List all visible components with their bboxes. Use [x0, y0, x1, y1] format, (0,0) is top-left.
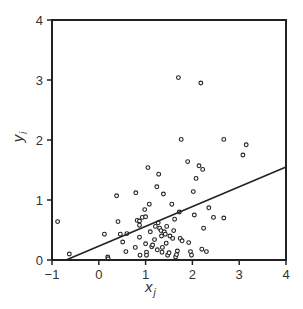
- data-point: [160, 234, 164, 238]
- data-point: [244, 143, 248, 147]
- data-point: [171, 237, 175, 241]
- data-point: [180, 239, 184, 243]
- data-point: [192, 213, 196, 217]
- x-axis-label: xj: [144, 278, 157, 298]
- x-tick-label: 0: [95, 267, 102, 282]
- x-axis: −101234: [45, 260, 290, 282]
- data-point: [133, 246, 137, 250]
- data-point: [167, 251, 171, 255]
- data-point: [191, 190, 195, 194]
- data-point: [138, 219, 142, 223]
- data-point: [145, 253, 149, 257]
- data-point: [138, 235, 142, 239]
- data-point: [160, 250, 164, 254]
- data-point: [134, 191, 138, 195]
- data-point: [222, 138, 226, 142]
- data-point: [115, 194, 119, 198]
- data-point: [172, 229, 176, 233]
- data-point: [187, 241, 191, 245]
- y-tick-label: 4: [36, 13, 43, 28]
- regression-line: [66, 167, 286, 260]
- data-points: [56, 76, 248, 261]
- data-point: [144, 215, 148, 219]
- data-point: [201, 168, 205, 172]
- plot-frame: [52, 20, 286, 260]
- x-tick-label: −1: [45, 267, 60, 282]
- data-point: [200, 247, 204, 251]
- data-point: [157, 172, 161, 176]
- x-tick-label: 4: [282, 267, 289, 282]
- data-point: [179, 138, 183, 142]
- data-point: [116, 220, 120, 224]
- data-point: [148, 230, 152, 234]
- y-axis-label: yi: [9, 131, 29, 144]
- y-axis-label-main: y: [9, 133, 26, 143]
- data-point: [170, 202, 174, 206]
- y-axis-label-sub: i: [18, 131, 29, 134]
- scatter-chart: −101234 01234 xj yi: [0, 0, 303, 309]
- y-tick-label: 3: [36, 73, 43, 88]
- data-point: [154, 225, 158, 229]
- data-point: [173, 217, 177, 221]
- data-point: [153, 238, 157, 242]
- data-point: [103, 232, 107, 236]
- data-point: [121, 240, 125, 244]
- data-point: [163, 232, 167, 236]
- x-tick-label: 3: [236, 267, 243, 282]
- data-point: [241, 153, 245, 157]
- data-point: [124, 250, 128, 254]
- y-tick-label: 2: [36, 133, 43, 148]
- data-point: [176, 249, 180, 253]
- data-point: [143, 208, 147, 212]
- y-tick-label: 0: [36, 253, 43, 268]
- data-point: [205, 250, 209, 254]
- x-tick-label: 2: [189, 267, 196, 282]
- data-point: [151, 243, 155, 247]
- y-axis: 01234: [36, 13, 52, 268]
- data-point: [138, 253, 142, 257]
- data-point: [161, 246, 165, 250]
- data-point: [199, 81, 203, 85]
- data-point: [212, 216, 216, 220]
- data-point: [165, 225, 169, 229]
- data-point: [144, 242, 148, 246]
- data-point: [162, 192, 166, 196]
- data-point: [155, 185, 159, 189]
- data-point: [147, 202, 151, 206]
- data-point: [67, 252, 71, 256]
- data-point: [56, 220, 60, 224]
- data-point: [197, 164, 201, 168]
- data-point: [194, 177, 198, 181]
- data-point: [186, 160, 190, 164]
- data-point: [207, 206, 211, 210]
- data-point: [138, 223, 142, 227]
- data-point: [202, 226, 206, 230]
- data-point: [118, 232, 122, 236]
- y-tick-label: 1: [36, 193, 43, 208]
- data-point: [164, 241, 168, 245]
- data-point: [190, 253, 194, 257]
- data-point: [222, 216, 226, 220]
- data-point: [146, 166, 150, 170]
- x-axis-label-main: x: [144, 278, 153, 295]
- data-point: [177, 76, 181, 80]
- data-point: [155, 248, 159, 252]
